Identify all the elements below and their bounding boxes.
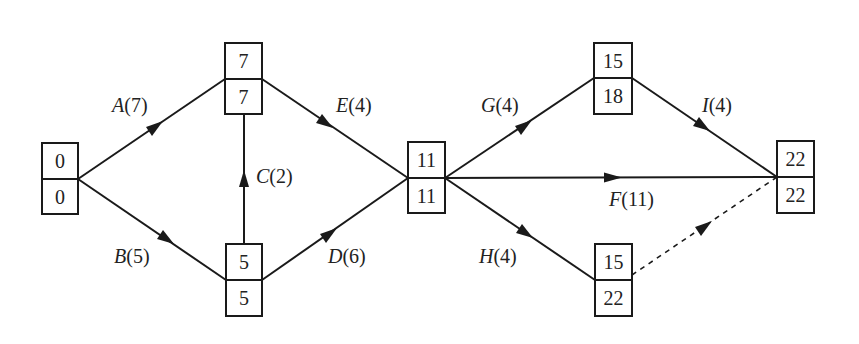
arrowhead-icon bbox=[604, 173, 622, 183]
latest-time: 22 bbox=[604, 287, 624, 309]
edge-label-i: I(4) bbox=[701, 94, 732, 117]
edge-label-b: B(5) bbox=[114, 245, 150, 268]
network-diagram: A(7) B(5) C(2) E(4) D(6) G(4) F(11) H(4)… bbox=[0, 0, 859, 344]
edge-c bbox=[239, 114, 249, 244]
earliest-time: 15 bbox=[603, 50, 623, 72]
edge-label-h: H(4) bbox=[478, 245, 517, 268]
edge-a bbox=[78, 79, 225, 179]
latest-time: 18 bbox=[603, 85, 623, 107]
edge-label-a: A(7) bbox=[110, 94, 148, 117]
edge-h bbox=[445, 178, 595, 280]
node-0: 0 0 bbox=[42, 143, 78, 214]
edge-label-c: C(2) bbox=[256, 165, 293, 188]
latest-time: 5 bbox=[239, 287, 249, 309]
arrowhead-icon bbox=[516, 224, 533, 238]
node-1: 7 7 bbox=[225, 43, 262, 114]
latest-time: 11 bbox=[417, 185, 436, 207]
earliest-time: 5 bbox=[239, 251, 249, 273]
latest-time: 22 bbox=[786, 184, 806, 206]
latest-time: 7 bbox=[239, 86, 249, 108]
edge-label-d: D(6) bbox=[327, 245, 366, 268]
earliest-time: 0 bbox=[55, 150, 65, 172]
arrowhead-icon bbox=[157, 230, 174, 244]
earliest-time: 7 bbox=[239, 50, 249, 72]
latest-time: 0 bbox=[55, 186, 65, 208]
arrowhead-icon bbox=[693, 117, 710, 131]
edge-f bbox=[445, 173, 777, 183]
node-6: 22 22 bbox=[777, 141, 814, 213]
arrowhead-icon bbox=[320, 228, 337, 243]
edge-label-f: F(11) bbox=[608, 188, 654, 211]
earliest-time: 15 bbox=[604, 251, 624, 273]
edge-e bbox=[262, 79, 408, 178]
node-2: 5 5 bbox=[226, 244, 262, 316]
edge-label-e: E(4) bbox=[335, 94, 372, 117]
arrowhead-icon bbox=[695, 221, 712, 236]
node-5: 15 22 bbox=[595, 244, 632, 316]
earliest-time: 22 bbox=[786, 148, 806, 170]
node-4: 15 18 bbox=[594, 43, 632, 114]
node-3: 11 11 bbox=[408, 142, 445, 213]
edge-i bbox=[632, 78, 777, 177]
earliest-time: 11 bbox=[417, 149, 436, 171]
edge-label-g: G(4) bbox=[481, 94, 519, 117]
arrowhead-icon bbox=[146, 121, 163, 136]
arrowhead-icon bbox=[515, 120, 532, 135]
arrowhead-icon bbox=[239, 170, 249, 187]
edge-b bbox=[78, 179, 226, 280]
arrowhead-icon bbox=[316, 114, 333, 128]
edge-g bbox=[445, 78, 594, 178]
